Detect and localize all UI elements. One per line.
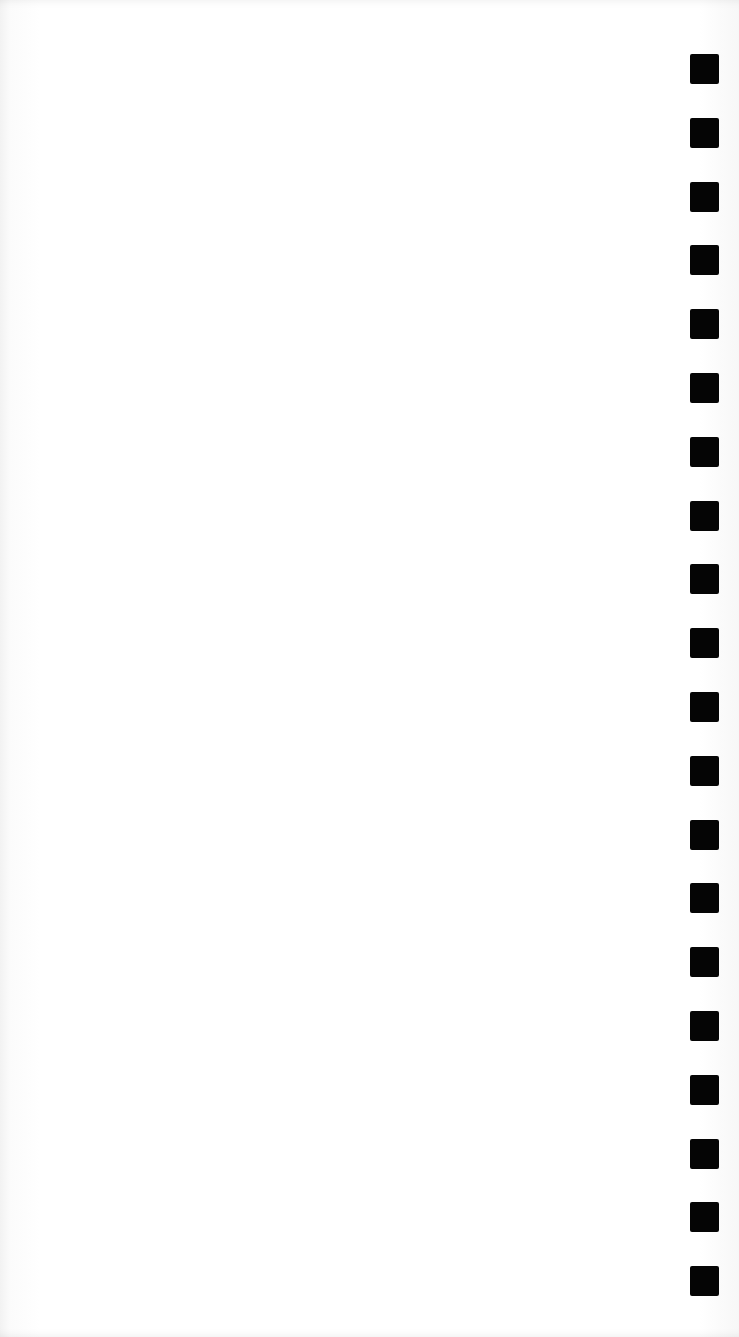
margin-mark-square bbox=[690, 756, 719, 786]
scanned-page bbox=[0, 0, 739, 1337]
margin-mark-square bbox=[690, 182, 719, 212]
margin-mark-square bbox=[690, 1139, 719, 1169]
margin-mark-square bbox=[690, 245, 719, 275]
margin-mark-square bbox=[690, 501, 719, 531]
margin-mark-square bbox=[690, 883, 719, 913]
margin-mark-square bbox=[690, 309, 719, 339]
margin-mark-square bbox=[690, 564, 719, 594]
margin-mark-square bbox=[690, 437, 719, 467]
margin-mark-square bbox=[690, 820, 719, 850]
margin-mark-square bbox=[690, 118, 719, 148]
margin-mark-square bbox=[690, 1011, 719, 1041]
margin-mark-square bbox=[690, 54, 719, 84]
margin-mark-square bbox=[690, 692, 719, 722]
margin-mark-square bbox=[690, 373, 719, 403]
margin-mark-square bbox=[690, 628, 719, 658]
margin-mark-square bbox=[690, 947, 719, 977]
margin-mark-square bbox=[690, 1075, 719, 1105]
margin-mark-square bbox=[690, 1266, 719, 1296]
margin-mark-square bbox=[690, 1202, 719, 1232]
